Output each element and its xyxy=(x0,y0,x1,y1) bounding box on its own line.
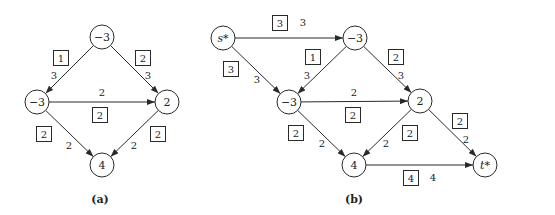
node-label: 4 xyxy=(99,159,106,172)
flow-label: 3 xyxy=(51,70,57,81)
panels-layer: 1323222222−3−324(a)333313232222222244s*−… xyxy=(25,16,497,207)
edge-b_top-to-b_right xyxy=(364,46,412,92)
edge-b_left-to-b_bottom xyxy=(298,110,346,156)
capacity-label: 2 xyxy=(350,110,356,121)
edge-a_top-to-a_right xyxy=(110,45,158,93)
panel-b: 333313232222222244s*−3−324t*(b) xyxy=(211,16,497,207)
flow-network-figure: 1323222222−3−324(a)333313232222222244s*−… xyxy=(0,0,555,215)
edges: 1323222222 xyxy=(37,45,166,156)
capacity-label: 1 xyxy=(310,52,316,63)
node-a_right: 2 xyxy=(155,90,179,114)
flow-label: 2 xyxy=(319,138,325,149)
node-label: t* xyxy=(480,159,490,172)
panel-caption: (a) xyxy=(91,193,109,206)
nodes: −3−324 xyxy=(25,25,179,177)
flow-label: 2 xyxy=(131,140,137,151)
node-label: −3 xyxy=(94,31,110,44)
flow-label: 3 xyxy=(254,74,260,85)
flow-label: 3 xyxy=(398,70,404,81)
flow-label: 2 xyxy=(383,138,389,149)
edge-b_left-to-b_right xyxy=(301,101,408,102)
capacity-label: 3 xyxy=(277,18,283,29)
node-b_s: s* xyxy=(211,26,235,50)
node-b_left: −3 xyxy=(277,90,301,114)
node-label: 2 xyxy=(164,96,171,109)
flow-label: 4 xyxy=(430,172,436,183)
capacity-label: 2 xyxy=(97,110,103,121)
capacity-label: 3 xyxy=(228,64,234,75)
flow-label: 2 xyxy=(351,87,357,98)
node-b_right: 2 xyxy=(408,89,432,113)
node-label: 2 xyxy=(417,95,424,108)
capacity-label: 2 xyxy=(140,53,146,64)
panel-caption: (b) xyxy=(345,193,363,206)
node-a_left: −3 xyxy=(25,90,49,114)
node-label: s* xyxy=(217,32,229,45)
node-label: −3 xyxy=(347,32,363,45)
flow-label: 2 xyxy=(99,87,105,98)
capacity-label: 2 xyxy=(407,128,413,139)
node-b_top: −3 xyxy=(343,26,367,50)
node-label: −3 xyxy=(281,96,297,109)
capacity-label: 2 xyxy=(155,129,161,140)
node-b_bottom: 4 xyxy=(342,153,366,177)
flow-label: 2 xyxy=(66,140,72,151)
node-label: 4 xyxy=(351,159,358,172)
flow-label: 3 xyxy=(300,17,306,28)
node-a_top: −3 xyxy=(90,25,114,49)
flow-label: 3 xyxy=(145,70,151,81)
node-b_t: t* xyxy=(473,153,497,177)
node-a_bottom: 4 xyxy=(90,153,114,177)
capacity-label: 2 xyxy=(393,52,399,63)
flow-label: 3 xyxy=(304,70,310,81)
capacity-label: 2 xyxy=(41,129,47,140)
panel-a: 1323222222−3−324(a) xyxy=(25,25,179,206)
capacity-label: 2 xyxy=(457,116,463,127)
node-label: −3 xyxy=(29,96,45,109)
capacity-label: 4 xyxy=(408,173,414,184)
capacity-label: 2 xyxy=(293,128,299,139)
flow-label: 2 xyxy=(463,134,469,145)
capacity-label: 1 xyxy=(58,53,64,64)
